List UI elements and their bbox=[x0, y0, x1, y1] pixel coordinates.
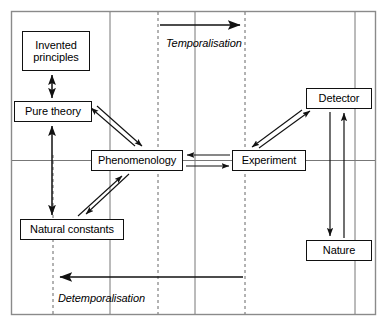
node-phenomenology-label: Phenomenology bbox=[98, 154, 176, 167]
edge-pure-theory-to-phenomenology bbox=[97, 106, 142, 146]
edge-natural-constants-to-phenomenology bbox=[78, 176, 122, 216]
node-invented-principles-label: Invented principles bbox=[33, 39, 78, 64]
node-nature-label: Nature bbox=[323, 244, 355, 257]
node-pure-theory-label: Pure theory bbox=[25, 105, 81, 118]
zone-label-temporalisation: Temporalisation bbox=[166, 37, 242, 49]
node-natural-constants-label: Natural constants bbox=[30, 223, 114, 236]
node-phenomenology[interactable]: Phenomenology bbox=[91, 150, 183, 171]
edge-phenomenology-to-natural-constants bbox=[86, 174, 129, 214]
node-detector-label: Detector bbox=[319, 92, 360, 105]
node-natural-constants[interactable]: Natural constants bbox=[20, 219, 124, 240]
node-nature[interactable]: Nature bbox=[306, 240, 372, 261]
node-experiment[interactable]: Experiment bbox=[232, 150, 306, 171]
node-pure-theory[interactable]: Pure theory bbox=[14, 101, 92, 122]
node-invented-principles[interactable]: Invented principles bbox=[22, 31, 90, 71]
edge-experiment-to-detector bbox=[259, 111, 310, 148]
zone-label-detemporalisation: Detemporalisation bbox=[58, 292, 145, 304]
node-experiment-label: Experiment bbox=[242, 154, 297, 167]
edge-phenomenology-to-pure-theory bbox=[91, 108, 135, 146]
diagram-canvas: Invented principles Pure theory Phenomen… bbox=[0, 0, 389, 326]
edge-detector-to-experiment bbox=[252, 110, 302, 147]
node-detector[interactable]: Detector bbox=[306, 88, 372, 109]
